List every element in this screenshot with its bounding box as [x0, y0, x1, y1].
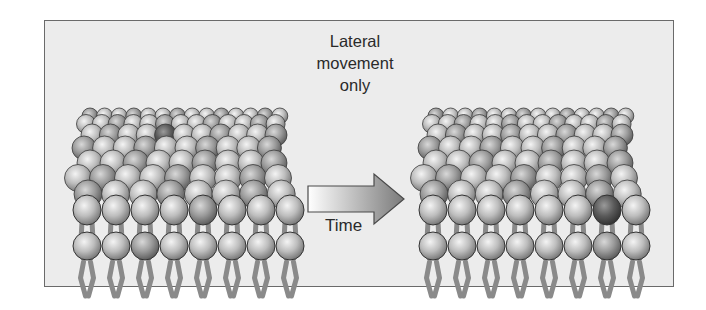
lipid-head-front [247, 195, 275, 225]
lipid-head-front [131, 195, 159, 225]
lipid-head-bottom [448, 232, 476, 260]
lipid-head-front [564, 195, 592, 225]
lipid-head-front [622, 195, 650, 225]
lipid-head-bottom [535, 232, 563, 260]
lipid-head-front [160, 195, 188, 225]
title-line-2: movement [300, 52, 410, 74]
lipid-head-front [593, 195, 621, 225]
lipid-head-front [419, 195, 447, 225]
lipid-head-bottom [131, 232, 159, 260]
lipid-head-front [448, 195, 476, 225]
diagram-title: Lateral movement only [300, 30, 410, 96]
lipid-head-front [477, 195, 505, 225]
lipid-head-bottom [419, 232, 447, 260]
lipid-head-bottom [189, 232, 217, 260]
lipid-head-front [506, 195, 534, 225]
lipid-head-front [102, 195, 130, 225]
bilayer-before [65, 108, 305, 296]
lipid-head-front [218, 195, 246, 225]
lipid-head-bottom [276, 232, 304, 260]
lipid-head-bottom [247, 232, 275, 260]
lipid-head-bottom [160, 232, 188, 260]
lipid-head-bottom [593, 232, 621, 260]
lipid-head-front [189, 195, 217, 225]
lipid-head-bottom [477, 232, 505, 260]
lipid-head-bottom [218, 232, 246, 260]
title-line-3: only [300, 74, 410, 96]
bilayer-after [411, 108, 651, 296]
title-line-1: Lateral [300, 30, 410, 52]
lipid-head-front [535, 195, 563, 225]
lipid-head-bottom [622, 232, 650, 260]
lipid-head-front [73, 195, 101, 225]
lipid-head-front [276, 195, 304, 225]
lipid-head-bottom [506, 232, 534, 260]
lipid-head-bottom [564, 232, 592, 260]
lipid-head-bottom [102, 232, 130, 260]
time-label: Time [325, 216, 362, 236]
lipid-head-bottom [73, 232, 101, 260]
